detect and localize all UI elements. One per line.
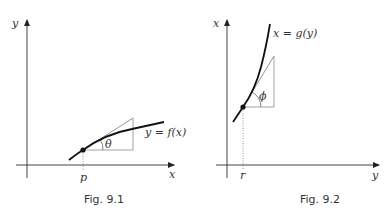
point-label: p <box>80 171 87 184</box>
figure-9-2: x y ϕ x = g(y) r Fig. 9.2 <box>213 17 379 206</box>
x-axis-label: x <box>213 17 220 30</box>
figure-caption: Fig. 9.1 <box>84 193 124 206</box>
diagram-canvas: y x θ y = f(x) p Fig. 9.1 x y ϕ x = g(y)… <box>0 0 388 213</box>
tangent-point <box>80 147 85 152</box>
angle-arc <box>100 139 103 150</box>
point-label: r <box>240 169 246 182</box>
figure-caption: Fig. 9.2 <box>300 193 340 206</box>
y-axis-label: y <box>371 169 379 182</box>
angle-label: ϕ <box>259 90 267 103</box>
figure-9-1: y x θ y = f(x) p Fig. 9.1 <box>11 17 186 206</box>
tangent-point <box>240 104 245 109</box>
y-axis-label: y <box>11 17 19 30</box>
x-axis-label: x <box>169 168 176 181</box>
angle-label: θ <box>105 138 112 151</box>
curve-label: y = f(x) <box>144 126 186 139</box>
curve-label: x = g(y) <box>273 27 317 40</box>
